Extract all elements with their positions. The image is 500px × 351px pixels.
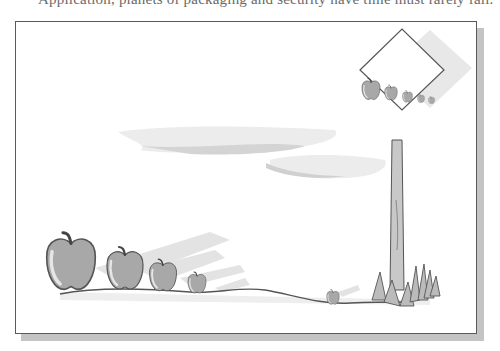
sign-apple-2: [385, 85, 398, 100]
apple-smallest: [327, 290, 340, 305]
grass-tufts: [372, 264, 440, 306]
apple-road-sign-illustration: [0, 0, 500, 351]
apple-large: [47, 233, 96, 290]
apple-small: [150, 259, 177, 291]
sign-apple-4: [417, 94, 424, 102]
apple-tiny: [188, 272, 206, 293]
sign-pole: [390, 140, 404, 290]
sign-apple-5: [428, 96, 434, 103]
apple-medium: [107, 247, 143, 289]
sign-apple-3: [403, 91, 413, 103]
road-sign: [360, 27, 472, 110]
cloud-streaks: [118, 127, 386, 179]
sign-apple-1: [362, 79, 380, 100]
